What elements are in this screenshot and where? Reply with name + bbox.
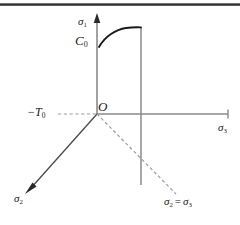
origin-label: O [98,100,107,113]
sigma2-axis-line [31,114,97,188]
axis-label-sigma1: σ1 [78,16,87,27]
axis-label-sigma2: σ2 [14,193,23,204]
annotation-label-c0: C0 [75,34,88,47]
sigma1-axis-arrowhead [94,13,101,23]
sigma2-equals-sigma3-dashed-line [97,114,176,194]
axis-label-sigma3: σ3 [218,122,227,133]
failure-envelope-curve [99,27,141,47]
annotation-label-sigma2-equals-sigma3: σ2=σ3 [164,196,192,207]
annotation-label-minus-t0: −T0 [27,106,46,118]
figure-root: σ1 C0 O −T0 σ3 σ2 σ2=σ3 [0,0,240,225]
